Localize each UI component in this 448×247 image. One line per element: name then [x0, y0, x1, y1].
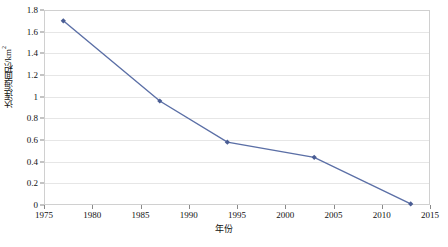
y-tick-label: 0.4	[27, 157, 38, 166]
x-tick-label: 1990	[180, 211, 198, 220]
y-axis: 00.20.40.60.811.21.41.61.8	[0, 0, 44, 215]
x-tick-label: 1980	[83, 211, 101, 220]
x-tick-label: 1975	[35, 211, 53, 220]
gridline	[45, 75, 429, 76]
y-tick-label: 1	[34, 92, 39, 101]
x-tick-mark	[285, 205, 286, 209]
x-axis-title: 年份	[0, 224, 448, 235]
gridline	[45, 53, 429, 54]
x-tick-label: 2000	[276, 211, 294, 220]
y-tick-label: 1.2	[27, 71, 38, 80]
y-tick-label: 1.8	[27, 6, 38, 15]
plot-area	[44, 10, 430, 205]
x-tick-label: 2010	[373, 211, 391, 220]
x-tick-mark	[430, 205, 431, 209]
line-chart: 达连海面积/km2 00.20.40.60.811.21.41.61.8 197…	[0, 0, 448, 247]
x-tick-mark	[44, 205, 45, 209]
x-tick-label: 2015	[421, 211, 439, 220]
gridline	[45, 183, 429, 184]
x-tick-label: 1995	[228, 211, 246, 220]
y-tick-label: 0.6	[27, 136, 38, 145]
x-tick-mark	[382, 205, 383, 209]
x-tick-label: 1985	[132, 211, 150, 220]
gridline	[45, 140, 429, 141]
gridline	[45, 97, 429, 98]
x-tick-mark	[92, 205, 93, 209]
x-tick-mark	[237, 205, 238, 209]
x-tick-mark	[334, 205, 335, 209]
gridline	[45, 162, 429, 163]
gridline	[45, 118, 429, 119]
y-tick-label: 1.4	[27, 49, 38, 58]
x-tick-mark	[141, 205, 142, 209]
x-tick-mark	[189, 205, 190, 209]
x-tick-label: 2005	[325, 211, 343, 220]
y-tick-label: 0.2	[27, 179, 38, 188]
y-tick-label: 1.6	[27, 27, 38, 36]
y-tick-label: 0.8	[27, 114, 38, 123]
gridline	[45, 32, 429, 33]
